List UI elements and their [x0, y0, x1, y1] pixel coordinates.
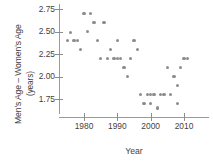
x-tick-mark	[84, 113, 85, 121]
data-point	[139, 93, 142, 96]
data-point	[182, 57, 185, 60]
data-point	[156, 106, 159, 109]
data-point	[86, 30, 89, 33]
y-axis-title-line1: Men's Age – Women's Age	[13, 24, 23, 124]
data-point	[149, 93, 152, 96]
data-point	[72, 39, 75, 42]
y-tick-label: 2.50	[31, 27, 55, 35]
data-point	[126, 75, 129, 78]
y-tick-label: 2.75	[31, 5, 55, 13]
data-point	[92, 21, 95, 24]
data-point	[122, 66, 125, 69]
data-point	[159, 93, 162, 96]
data-point	[176, 102, 179, 105]
data-point	[149, 102, 152, 105]
data-point	[116, 39, 119, 42]
y-tick-mark	[55, 32, 63, 33]
data-point	[89, 12, 92, 15]
data-point	[129, 57, 132, 60]
y-tick-label: 2.25	[31, 50, 55, 58]
y-tick-mark	[55, 54, 63, 55]
data-point	[96, 39, 99, 42]
y-axis-title: Men's Age – Women's Age (years)	[0, 0, 30, 130]
y-axis-line	[59, 4, 60, 114]
data-point	[136, 48, 139, 51]
data-point	[66, 39, 69, 42]
x-axis-title: Year	[59, 146, 209, 156]
data-point	[69, 31, 72, 34]
y-axis-tick-labels: 1.752.002.252.502.75	[30, 0, 55, 130]
x-axis-line	[59, 117, 209, 118]
x-tick-mark	[184, 113, 185, 121]
y-tick-label: 2.00	[31, 72, 55, 80]
data-point	[142, 102, 145, 105]
data-point	[176, 84, 179, 87]
data-point	[102, 21, 105, 24]
data-point	[169, 93, 172, 96]
data-point	[186, 57, 189, 60]
data-point	[109, 48, 112, 51]
data-point	[82, 12, 85, 15]
data-point	[112, 57, 115, 60]
x-tick-label: 1980	[67, 122, 101, 130]
y-tick-mark	[55, 99, 63, 100]
data-point	[146, 93, 149, 96]
y-tick-label: 1.75	[31, 95, 55, 103]
x-tick-label: 1990	[100, 122, 134, 130]
data-point	[132, 39, 135, 42]
x-tick-mark	[151, 113, 152, 121]
x-tick-label: 2010	[167, 122, 201, 130]
data-point	[106, 57, 109, 60]
data-point	[76, 39, 79, 42]
data-point	[166, 66, 169, 69]
data-point	[179, 66, 182, 69]
x-tick-label: 2000	[134, 122, 168, 130]
data-point	[162, 93, 165, 96]
data-point	[79, 48, 82, 51]
scatter-chart: Men's Age – Women's Age (years) 1.752.00…	[0, 0, 213, 164]
data-point	[152, 93, 155, 96]
y-tick-mark	[55, 77, 63, 78]
data-point	[116, 57, 119, 60]
x-tick-mark	[117, 113, 118, 121]
data-point	[172, 75, 175, 78]
data-point	[99, 57, 102, 60]
y-tick-mark	[55, 9, 63, 10]
data-point	[119, 57, 122, 60]
